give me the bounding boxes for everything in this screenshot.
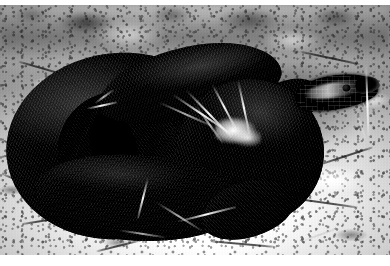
photograph	[0, 5, 390, 255]
photo-frame	[0, 0, 390, 266]
photo-caption	[0, 255, 390, 266]
